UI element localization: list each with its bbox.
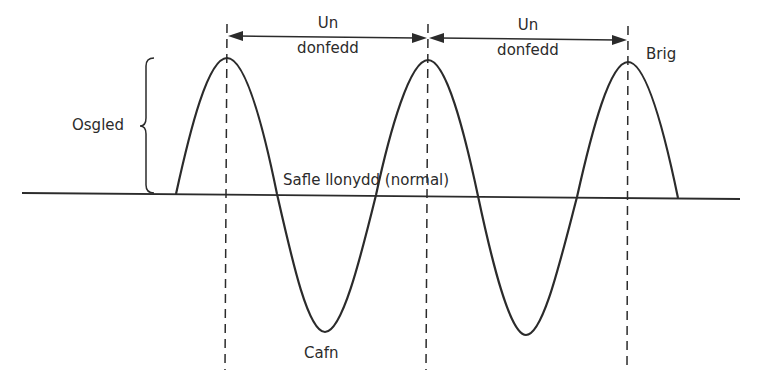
- rest-position-label: Safle llonydd (normal): [283, 171, 449, 189]
- wavelength-label-2-line1: Un: [518, 16, 539, 34]
- wavelength-label-1-line2: donfedd: [297, 39, 359, 57]
- transverse-wave-diagram: Un donfedd Un donfedd Osgled Safle llony…: [0, 0, 759, 385]
- crest-dashed-line-3: [627, 26, 628, 370]
- crest-dashed-line-2: [426, 24, 428, 370]
- wavelength-label-1-line1: Un: [318, 14, 339, 32]
- crest-dashed-line-1: [225, 24, 227, 370]
- amplitude-label: Osgled: [72, 116, 124, 134]
- wavelength-label-2-line2: donfedd: [497, 41, 559, 59]
- amplitude-brace: [140, 58, 154, 193]
- trough-label: Cafn: [304, 344, 338, 362]
- rest-position-line: [22, 193, 740, 199]
- crest-label: Brig: [646, 45, 676, 63]
